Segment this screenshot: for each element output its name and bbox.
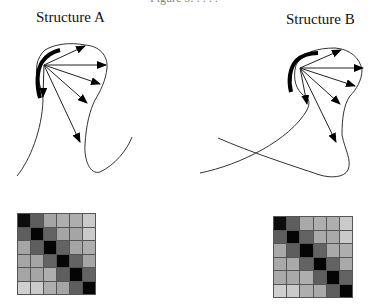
matrix-cell	[327, 231, 339, 244]
matrix-cell	[57, 241, 69, 254]
matrix-cell	[44, 214, 56, 227]
matrix-cell	[287, 258, 299, 271]
matrix-cell	[31, 228, 43, 241]
matrix-cell	[57, 255, 69, 268]
matrix-cell	[83, 255, 95, 268]
matrix-cell	[274, 258, 286, 271]
matrix-cell	[18, 228, 30, 241]
matrix-cell	[314, 271, 326, 284]
matrix-cell	[57, 214, 69, 227]
matrix-cell	[314, 244, 326, 257]
matrix-cell	[57, 282, 69, 295]
matrix-cell	[83, 282, 95, 295]
matrix-cell	[83, 268, 95, 281]
matrix-cell	[340, 231, 352, 244]
matrix-cell	[57, 268, 69, 281]
structure-b-similarity-matrix	[273, 216, 353, 298]
matrix-cell	[57, 228, 69, 241]
matrix-cell	[314, 231, 326, 244]
matrix-cell	[274, 231, 286, 244]
matrix-cell	[287, 217, 299, 230]
structure-a-similarity-matrix	[17, 213, 96, 295]
matrix-cell	[327, 285, 339, 298]
matrix-cell	[83, 228, 95, 241]
matrix-cell	[70, 282, 82, 295]
matrix-cell	[327, 217, 339, 230]
matrix-cell	[18, 214, 30, 227]
matrix-cell	[300, 231, 312, 244]
matrix-cell	[31, 255, 43, 268]
matrix-cell	[300, 285, 312, 298]
matrix-cell	[340, 258, 352, 271]
matrix-cell	[70, 214, 82, 227]
matrix-cell	[340, 244, 352, 257]
matrix-cell	[287, 285, 299, 298]
structure-b-shape	[200, 48, 363, 177]
matrix-cell	[287, 244, 299, 257]
matrix-cell	[340, 285, 352, 298]
matrix-cell	[31, 268, 43, 281]
matrix-cell	[70, 241, 82, 254]
matrix-cell	[83, 241, 95, 254]
matrix-cell	[300, 271, 312, 284]
matrix-cell	[31, 214, 43, 227]
matrix-cell	[70, 268, 82, 281]
matrix-cell	[274, 285, 286, 298]
matrix-cell	[44, 241, 56, 254]
matrix-cell	[300, 217, 312, 230]
matrix-cell	[287, 231, 299, 244]
matrix-cell	[31, 282, 43, 295]
matrix-cell	[314, 258, 326, 271]
matrix-cell	[274, 217, 286, 230]
matrix-cell	[274, 244, 286, 257]
matrix-cell	[340, 271, 352, 284]
matrix-cell	[44, 282, 56, 295]
matrix-cell	[83, 214, 95, 227]
structure-a-shape	[17, 44, 132, 176]
matrix-cell	[327, 244, 339, 257]
matrix-cell	[44, 268, 56, 281]
matrix-cell	[44, 255, 56, 268]
matrix-cell	[44, 228, 56, 241]
matrix-cell	[18, 282, 30, 295]
matrix-cell	[340, 217, 352, 230]
matrix-cell	[274, 271, 286, 284]
matrix-cell	[70, 228, 82, 241]
matrix-cell	[327, 258, 339, 271]
matrix-cell	[18, 241, 30, 254]
matrix-cell	[300, 258, 312, 271]
matrix-cell	[327, 271, 339, 284]
matrix-cell	[300, 244, 312, 257]
matrix-cell	[70, 255, 82, 268]
matrix-cell	[314, 217, 326, 230]
matrix-cell	[287, 271, 299, 284]
matrix-cell	[18, 268, 30, 281]
matrix-cell	[31, 241, 43, 254]
matrix-cell	[314, 285, 326, 298]
matrix-cell	[18, 255, 30, 268]
